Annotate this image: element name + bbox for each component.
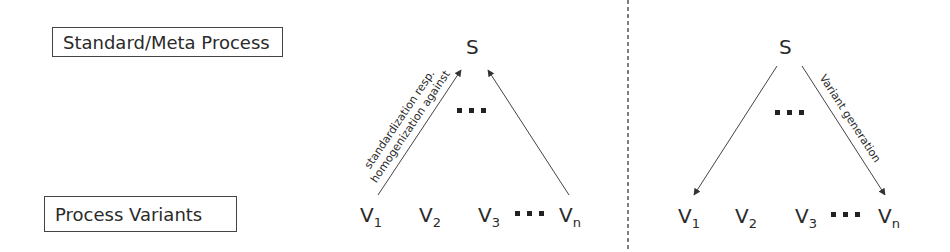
right-node-s: S (779, 35, 792, 59)
right-arrow-s-to-vn (802, 66, 885, 195)
left-arrow-vn-to-s (488, 70, 569, 195)
right-arrow-s-to-v1 (694, 66, 777, 195)
right-variant-v2: V2 (735, 206, 757, 230)
right-variant-v1: V1 (678, 206, 700, 230)
left-variant-v3: V3 (478, 205, 500, 229)
right-variant-v3: V3 (795, 206, 817, 230)
left-variant-vn: Vn (559, 205, 581, 229)
left-ellipsis-dots (457, 108, 544, 216)
right-variant-vn: Vn (878, 206, 900, 230)
left-variant-v2: V2 (419, 205, 441, 229)
left-variant-v1: V1 (360, 205, 382, 229)
